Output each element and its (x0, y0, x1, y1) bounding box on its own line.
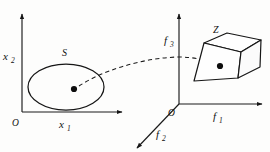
x1-axis-label-group: x 1 (58, 118, 71, 133)
f3-axis-label: f (164, 34, 169, 46)
f3-axis-label-group: f 3 (164, 34, 174, 49)
f1-axis-label-subscript: 1 (219, 116, 223, 125)
attainable-set-label: Z (213, 24, 219, 35)
mapping-arrow-curve (79, 57, 212, 86)
f1-axis-label-group: f 1 (213, 110, 223, 125)
attainable-set-polyhedron (194, 33, 261, 81)
decision-space-origin-label: O (12, 118, 19, 128)
feasible-set-label: S (62, 47, 67, 58)
f3-axis-label-subscript: 3 (169, 40, 174, 49)
diagram-canvas: x 2 x 1 O S f 3 f 1 f 2 O Z (0, 0, 270, 152)
x2-axis-label: x (2, 50, 8, 62)
feasible-set-ellipse (28, 64, 104, 110)
decision-space-plot (22, 14, 122, 112)
decision-point-dot (71, 86, 77, 92)
objective-space-origin-label: O (168, 108, 175, 118)
f2-axis-label: f (156, 128, 161, 140)
figure-container: x 2 x 1 O S f 3 f 1 f 2 O Z (0, 0, 270, 152)
x2-axis-label-subscript: 2 (11, 56, 15, 65)
x1-axis-label: x (58, 118, 64, 130)
x2-axis-label-group: x 2 (2, 50, 15, 65)
f2-axis-label-subscript: 2 (162, 134, 166, 143)
f2-axis-label-group: f 2 (156, 128, 166, 143)
objective-point-dot (217, 63, 223, 69)
f1-axis-label: f (213, 110, 218, 122)
x1-axis-label-subscript: 1 (67, 124, 71, 133)
